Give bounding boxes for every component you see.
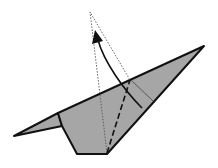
paper-body [58, 46, 204, 154]
origami-diagram [0, 0, 218, 168]
left-flap [14, 113, 62, 136]
